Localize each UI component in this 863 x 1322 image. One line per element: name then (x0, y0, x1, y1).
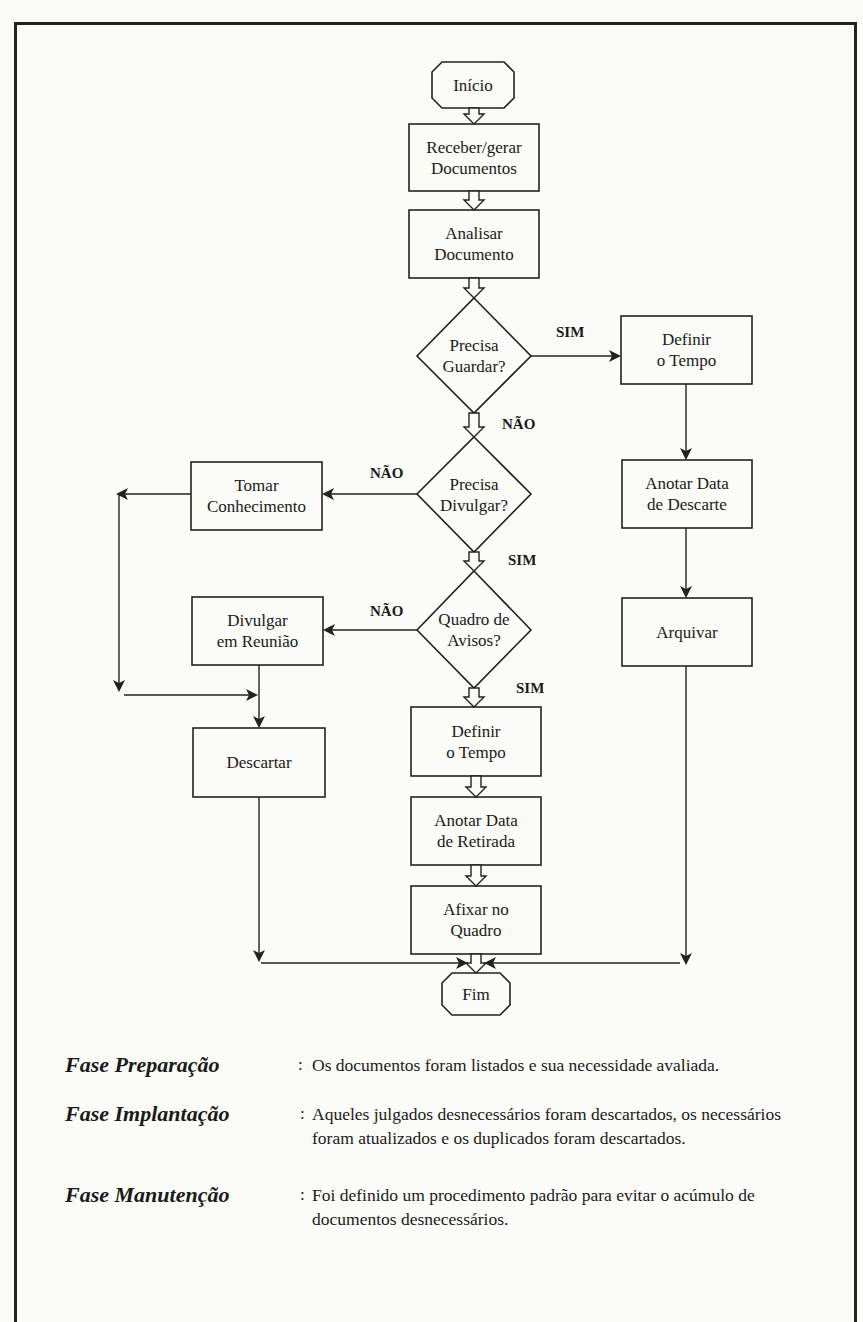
anotar-descarte-label: Anotar Data de Descarte (622, 460, 752, 528)
end-label: Fim (442, 973, 510, 1015)
precisa-guardar-label: Precisa Guardar? (417, 298, 531, 413)
legend-description: Foi definido um procedimento padrão para… (312, 1183, 812, 1231)
analisar-documento-label: Analisar Documento (409, 210, 539, 278)
legend-description: Aqueles julgados desnecessários foram de… (312, 1102, 812, 1150)
legend-separator: : (298, 1052, 303, 1078)
edge-label-guardar-sim: SIM (556, 324, 584, 341)
legend-description: Os documentos foram listados e sua neces… (312, 1053, 812, 1077)
edge-label-divulgar-nao: NÃO (370, 465, 403, 482)
start-label: Início (432, 62, 514, 108)
receber-documentos-label: Receber/gerar Documentos (409, 124, 539, 191)
definir-tempo-center-label: Definir o Tempo (411, 707, 541, 776)
legend-separator: : (300, 1101, 305, 1127)
edge-label-quadro-nao: NÃO (370, 603, 403, 620)
arquivar-label: Arquivar (622, 598, 752, 666)
divulgar-reuniao-label: Divulgar em Reunião (192, 597, 323, 665)
edge-label-guardar-nao: NÃO (502, 416, 535, 433)
legend-phase-label: Fase Implantação (65, 1101, 229, 1127)
anotar-retirada-label: Anotar Data de Retirada (411, 797, 541, 865)
edge-label-divulgar-sim: SIM (508, 552, 536, 569)
afixar-quadro-label: Afixar no Quadro (411, 886, 541, 954)
quadro-avisos-label: Quadro de Avisos? (417, 571, 531, 688)
descartar-label: Descartar (193, 728, 325, 797)
definir-tempo-right-label: Definir o Tempo (621, 316, 752, 384)
legend-phase-label: Fase Preparação (65, 1052, 220, 1078)
tomar-conhecimento-label: Tomar Conhecimento (191, 462, 322, 530)
precisa-divulgar-label: Precisa Divulgar? (417, 437, 531, 552)
legend-separator: : (300, 1182, 305, 1208)
edge-label-quadro-sim: SIM (516, 680, 544, 697)
legend-phase-label: Fase Manutenção (65, 1182, 229, 1208)
